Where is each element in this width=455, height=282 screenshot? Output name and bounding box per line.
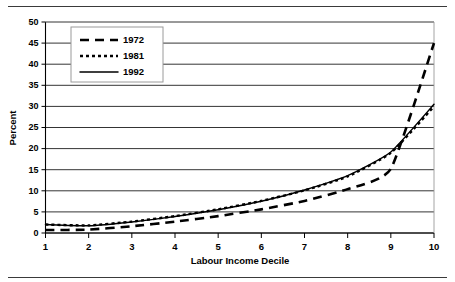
x-tick-label-3: 3 bbox=[129, 241, 134, 252]
y-axis-title: Percent bbox=[7, 110, 18, 146]
y-tick-label-35: 35 bbox=[28, 80, 38, 90]
x-tick-label-1: 1 bbox=[43, 241, 49, 252]
x-axis-ticks: 12345678910 bbox=[43, 233, 439, 252]
legend-label-1972: 1972 bbox=[123, 34, 144, 45]
y-tick-label-45: 45 bbox=[28, 38, 38, 48]
y-tick-label-5: 5 bbox=[33, 207, 38, 217]
y-tick-label-10: 10 bbox=[28, 186, 38, 196]
x-tick-label-6: 6 bbox=[259, 241, 264, 252]
legend-box bbox=[71, 27, 163, 82]
y-tick-label-15: 15 bbox=[28, 165, 38, 175]
figure-container: 05101520253035404550 12345678910 Percent… bbox=[0, 0, 455, 282]
y-axis-ticks: 05101520253035404550 bbox=[28, 17, 45, 238]
y-tick-label-40: 40 bbox=[28, 59, 38, 69]
x-tick-label-2: 2 bbox=[86, 241, 91, 252]
y-tick-label-50: 50 bbox=[28, 17, 38, 27]
y-tick-label-0: 0 bbox=[33, 228, 38, 238]
y-tick-label-20: 20 bbox=[28, 143, 38, 153]
line-chart: 05101520253035404550 12345678910 Percent… bbox=[0, 0, 455, 282]
x-tick-label-5: 5 bbox=[216, 241, 222, 252]
series-line-1992 bbox=[46, 104, 435, 226]
chart-legend: 197219811992 bbox=[71, 27, 163, 82]
series-line-1981 bbox=[46, 106, 435, 225]
chart-plot-wrapper: 05101520253035404550 12345678910 Percent… bbox=[0, 0, 455, 282]
legend-label-1992: 1992 bbox=[123, 66, 144, 77]
x-tick-label-9: 9 bbox=[388, 241, 393, 252]
x-tick-label-10: 10 bbox=[429, 241, 440, 252]
x-tick-label-4: 4 bbox=[172, 241, 178, 252]
legend-label-1981: 1981 bbox=[123, 50, 145, 61]
y-tick-label-25: 25 bbox=[28, 122, 38, 132]
x-tick-label-8: 8 bbox=[345, 241, 350, 252]
x-axis-title: Labour Income Decile bbox=[191, 255, 290, 266]
x-tick-label-7: 7 bbox=[302, 241, 307, 252]
y-tick-label-30: 30 bbox=[28, 101, 38, 111]
